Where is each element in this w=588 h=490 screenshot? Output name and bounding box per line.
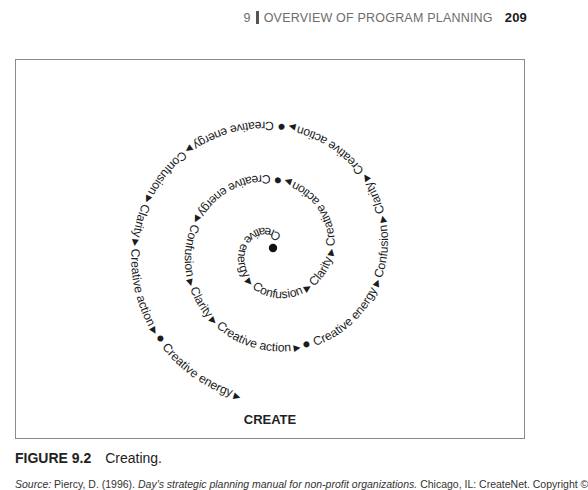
source-book-title: Day's strategic planning manual for non-…: [138, 478, 417, 490]
figure-number: FIGURE 9.2: [15, 450, 91, 466]
spiral-phase-label: Confusion: [182, 222, 203, 277]
source-prefix: Source:: [15, 478, 51, 490]
spiral-phase-label: Creative action: [214, 318, 291, 354]
spiral-phase-label: Confusion: [250, 279, 305, 302]
spiral-phase-label: Creative energy: [160, 340, 236, 400]
spiral-label: Creative energy ▶ Confusion ▶ Clarity ▶ …: [128, 119, 391, 402]
spiral-phase-label: Creative action: [295, 123, 367, 178]
figure-caption: FIGURE 9.2 Creating.: [15, 450, 162, 466]
figure-center-label: CREATE: [16, 412, 524, 427]
spiral-phase-label: Creative energy: [190, 119, 274, 154]
source-line: Source: Piercy, D. (1996). Day's strateg…: [15, 478, 588, 490]
figure-box: Creative energy ▶ Confusion ▶ Clarity ▶ …: [15, 59, 525, 439]
spiral-phase-label: Creative energy: [195, 172, 271, 220]
source-authors: Piercy, D. (1996).: [54, 478, 135, 490]
dot-icon: ●: [273, 119, 287, 136]
dot-icon: ●: [269, 172, 283, 190]
spiral-phase-label: Confusion: [145, 148, 190, 198]
spiral-phase-label: Creative action: [128, 248, 158, 328]
spiral-phase-label: Clarity: [130, 202, 153, 239]
arrow-right-icon: ▶: [130, 236, 141, 249]
figure-title: Creating.: [105, 450, 162, 466]
spiral-phase-label: Creative action: [289, 179, 337, 247]
spiral-phase-label: Confusion: [371, 224, 391, 279]
source-publisher: Chicago, IL: CreateNet. Copyright ©: [420, 478, 588, 490]
spiral-phase-label: Creative energy: [311, 284, 380, 349]
spiral-phase-label: Creative energy: [235, 225, 284, 281]
arrow-right-icon: ▶: [290, 341, 303, 353]
